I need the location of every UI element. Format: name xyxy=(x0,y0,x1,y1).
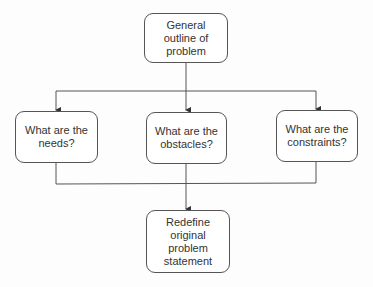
node-redefine-label: Redefine original problem statement xyxy=(151,216,225,268)
node-redefine: Redefine original problem statement xyxy=(146,210,230,273)
node-constraints-label: What are the constraints? xyxy=(281,123,353,149)
node-obstacles: What are the obstacles? xyxy=(146,112,227,164)
node-needs: What are the needs? xyxy=(15,111,98,163)
flowchart-canvas: General outline of problem What are the … xyxy=(0,0,373,287)
node-needs-label: What are the needs? xyxy=(20,124,93,150)
node-constraints: What are the constraints? xyxy=(276,110,358,162)
node-obstacles-label: What are the obstacles? xyxy=(151,125,222,151)
node-general-outline: General outline of problem xyxy=(144,13,228,63)
node-general-outline-label: General outline of problem xyxy=(149,19,223,58)
